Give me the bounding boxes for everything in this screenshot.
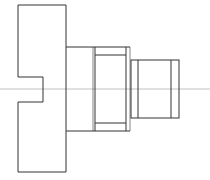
part-drawing xyxy=(0,0,210,180)
flange-outline xyxy=(18,5,66,172)
